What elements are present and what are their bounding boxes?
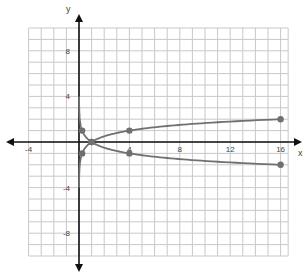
x-tick-label: 16 (276, 145, 285, 154)
y-tick-label: -4 (63, 184, 71, 193)
x-axis-left-arrow-icon (6, 138, 14, 146)
data-point (88, 139, 94, 145)
data-point (126, 127, 132, 133)
x-tick-label: -4 (25, 145, 33, 154)
y-axis-down-arrow-icon (75, 264, 83, 272)
x-tick-label: 8 (178, 145, 183, 154)
x-tick-label: 12 (226, 145, 235, 154)
x-axis-label: x (298, 148, 303, 158)
y-axis-label: y (66, 4, 71, 14)
x-axis-right-arrow-icon (294, 138, 302, 146)
y-tick-label: 8 (66, 47, 71, 56)
data-point (277, 116, 283, 122)
data-point (277, 162, 283, 168)
data-point (126, 150, 132, 156)
y-tick-label: -8 (63, 229, 71, 238)
coordinate-plane: -448121684-4-8 x y (0, 0, 308, 280)
y-axis-up-arrow-icon (75, 14, 83, 22)
y-tick-label: 4 (66, 92, 71, 101)
data-point (79, 150, 85, 156)
data-point (79, 127, 85, 133)
